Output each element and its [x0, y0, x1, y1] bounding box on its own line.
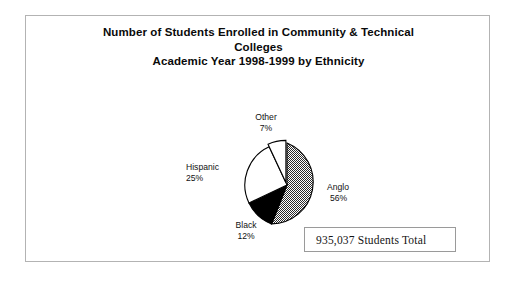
pie-label-hispanic-name: Hispanic [186, 162, 248, 173]
pie-label-black-pct: 12% [219, 231, 273, 242]
pie-label-other-pct: 7% [232, 123, 300, 134]
pie-label-anglo: Anglo 56% [327, 182, 387, 203]
pie-label-anglo-name: Anglo [327, 182, 387, 193]
pie-label-black: Black 12% [219, 220, 273, 241]
pie-label-other-name: Other [232, 112, 300, 123]
chart-title-line-3: Academic Year 1998-1999 by Ethnicity [26, 54, 491, 69]
pie-label-hispanic: Hispanic 25% [186, 162, 248, 183]
pie-label-hispanic-pct: 25% [186, 173, 248, 184]
total-students-text: 935,037 Students Total [305, 234, 426, 246]
pie-label-anglo-pct: 56% [327, 193, 387, 204]
pie-label-black-name: Black [219, 220, 273, 231]
chart-title-line-2: Colleges [26, 40, 491, 55]
chart-title: Number of Students Enrolled in Community… [26, 25, 491, 69]
total-students-box: 935,037 Students Total [304, 227, 456, 252]
pie-label-other: Other 7% [232, 112, 300, 133]
chart-frame: Number of Students Enrolled in Community… [25, 15, 490, 262]
chart-title-line-1: Number of Students Enrolled in Community… [26, 25, 491, 40]
